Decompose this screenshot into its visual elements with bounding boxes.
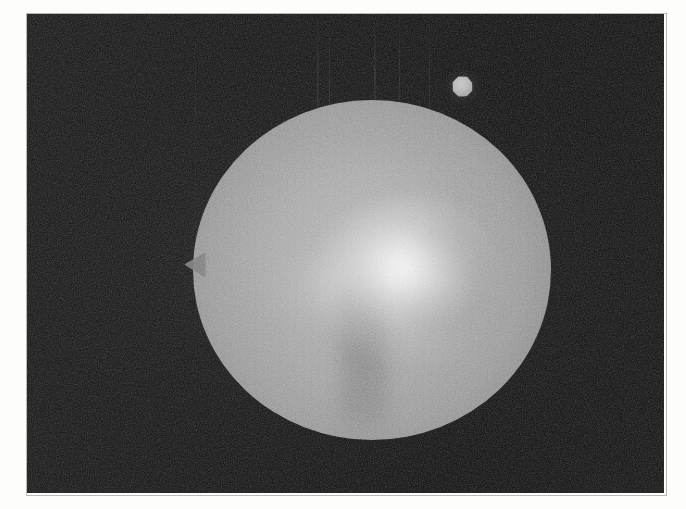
disk-bright-core (315, 196, 505, 366)
primary-disk (193, 100, 551, 440)
page (0, 0, 686, 509)
satellite-object (452, 76, 473, 97)
astronomical-plate (27, 14, 664, 493)
